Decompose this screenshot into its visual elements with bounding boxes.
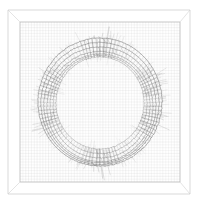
figure-container — [0, 0, 198, 206]
wireframe-plot — [0, 0, 198, 206]
plot-background — [0, 0, 198, 206]
